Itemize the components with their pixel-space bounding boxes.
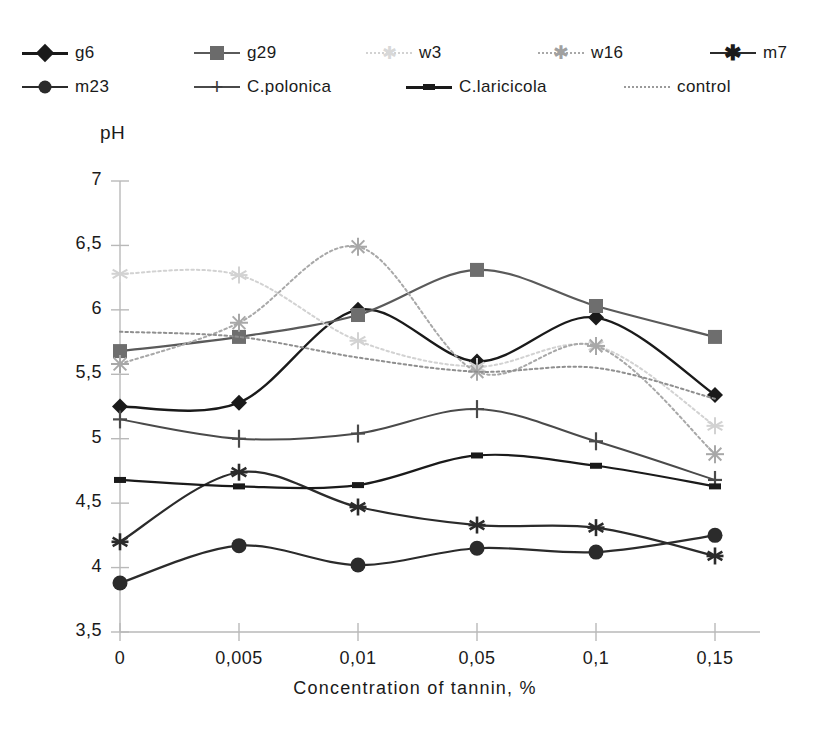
- y-tick-label: 5: [48, 427, 102, 448]
- data-point-marker: [471, 452, 483, 458]
- x-tick-label: 0,005: [194, 648, 284, 669]
- data-point-marker: [587, 337, 605, 355]
- data-point-marker: [707, 387, 723, 403]
- data-point-marker: [470, 263, 484, 277]
- x-tick-label: 0,15: [670, 648, 760, 669]
- data-point-marker: [470, 400, 484, 418]
- y-tick-label: 5,5: [48, 362, 102, 383]
- y-tick-label: 3,5: [48, 620, 102, 641]
- y-tick-label: 4: [48, 556, 102, 577]
- data-point-marker: [706, 445, 724, 463]
- y-axis-title: pH: [100, 122, 125, 144]
- series-c-polonica: [113, 400, 722, 489]
- data-point-marker: [231, 464, 248, 481]
- data-point-marker: [232, 538, 247, 553]
- chart-figure: g6 g29 ✱ w3 ✱ w1: [0, 0, 830, 740]
- data-point-marker: [111, 355, 129, 373]
- data-point-marker: [112, 265, 129, 282]
- data-point-marker: [351, 557, 366, 572]
- data-point-marker: [351, 425, 365, 443]
- x-axis-title: Concentration of tannin, %: [0, 678, 830, 699]
- x-tick-label: 0,01: [313, 648, 403, 669]
- series-m23: [113, 528, 723, 591]
- series-w3: [112, 265, 724, 434]
- x-tick-label: 0: [75, 648, 165, 669]
- data-point-marker: [590, 463, 602, 469]
- data-point-marker: [230, 314, 248, 332]
- data-point-marker: [231, 267, 248, 284]
- chart-canvas: [0, 0, 830, 740]
- data-point-marker: [352, 482, 364, 488]
- data-point-marker: [588, 519, 605, 536]
- series-line: [120, 246, 715, 454]
- data-point-marker: [350, 499, 367, 516]
- series-g29: [113, 263, 722, 358]
- data-point-marker: [589, 299, 603, 313]
- series-w16: [111, 238, 724, 463]
- data-point-marker: [112, 533, 129, 550]
- y-tick-label: 6: [48, 298, 102, 319]
- series-line: [120, 270, 715, 426]
- data-point-marker: [113, 410, 127, 428]
- data-point-marker: [589, 545, 604, 560]
- x-tick-label: 0,05: [432, 648, 522, 669]
- data-point-marker: [350, 332, 367, 349]
- y-tick-label: 4,5: [48, 491, 102, 512]
- y-tick-label: 6,5: [48, 233, 102, 254]
- series-line: [120, 270, 715, 351]
- data-point-marker: [470, 541, 485, 556]
- data-point-marker: [351, 308, 365, 322]
- data-point-marker: [113, 576, 128, 591]
- plot-area: pH Concentration of tannin, % 76,565,554…: [0, 0, 830, 740]
- series-g6: [112, 302, 723, 415]
- data-point-marker: [232, 430, 246, 448]
- data-point-marker: [231, 395, 247, 411]
- data-point-marker: [114, 477, 126, 483]
- data-point-marker: [589, 432, 603, 450]
- series-line: [120, 535, 715, 583]
- data-point-marker: [709, 483, 721, 489]
- y-tick-label: 7: [48, 169, 102, 190]
- axes: [120, 181, 760, 632]
- data-point-marker: [233, 483, 245, 489]
- data-point-marker: [708, 330, 722, 344]
- data-point-marker: [708, 528, 723, 543]
- data-point-marker: [707, 547, 724, 564]
- data-point-marker: [707, 417, 724, 434]
- x-tick-label: 0,1: [551, 648, 641, 669]
- data-point-marker: [349, 238, 367, 256]
- data-point-marker: [469, 517, 486, 534]
